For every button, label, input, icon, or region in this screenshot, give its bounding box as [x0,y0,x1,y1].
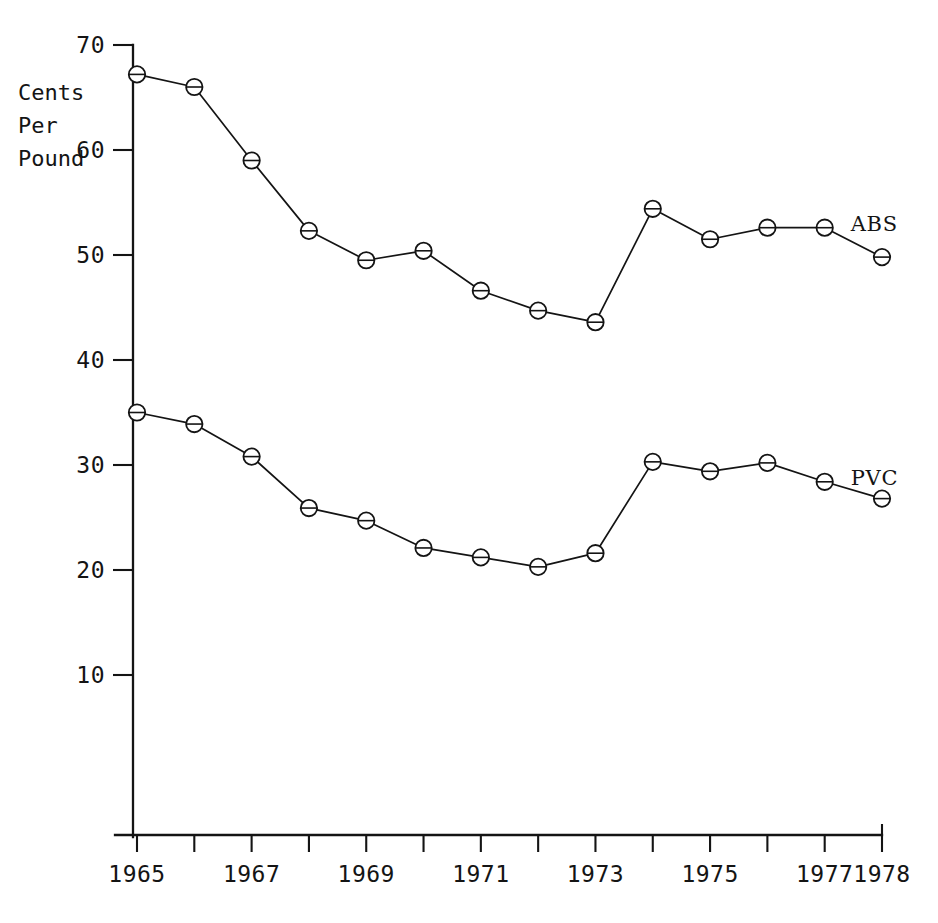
y-axis-title: CentsPerPound [18,80,84,171]
y-tick-label: 20 [76,557,105,583]
series-label-abs: ABS [850,212,898,236]
x-tick-label: 1969 [338,861,395,887]
y-tick-label: 10 [76,662,105,688]
series-line-abs [137,74,882,322]
x-tick-label: 1973 [567,861,624,887]
chart-canvas: 10203040506070 1965196719691971197319751… [0,0,938,923]
y-tick-label: 70 [76,32,105,58]
y-tick-label: 50 [76,242,105,268]
y-axis-title-line: Per [18,113,58,138]
x-tick-label: 1977 [796,861,853,887]
y-axis: 10203040506070 [76,32,133,837]
series-label-pvc: PVC [851,466,898,490]
series-layer [129,66,890,575]
x-tick-label: 1978 [853,861,910,887]
y-tick-label: 40 [76,347,105,373]
y-axis-title-line: Cents [18,80,84,105]
line-chart: 10203040506070 1965196719691971197319751… [0,0,938,923]
y-tick-label: 30 [76,452,105,478]
x-axis: 19651967196919711973197519771978 [108,824,910,887]
y-axis-title-line: Pound [18,146,84,171]
figure-caption [0,907,938,923]
x-tick-label: 1975 [681,861,738,887]
x-tick-label: 1965 [108,861,165,887]
x-tick-label: 1967 [223,861,280,887]
series-line-pvc [137,413,882,567]
x-tick-label: 1971 [452,861,509,887]
